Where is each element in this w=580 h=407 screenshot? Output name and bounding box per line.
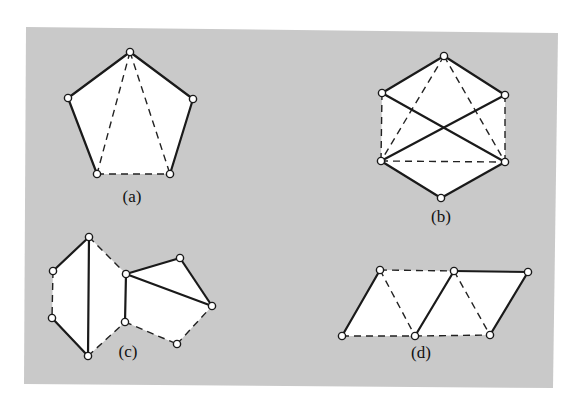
vertex-circle-icon (173, 340, 180, 347)
vertex-circle-icon (84, 352, 91, 359)
vertex-circle-icon (437, 194, 444, 201)
vertex-circle-icon (440, 52, 447, 59)
vertex-circle-icon (126, 48, 133, 55)
figure-d-label: (d) (411, 343, 431, 362)
vertex-circle-icon (189, 95, 196, 102)
vertex-circle-icon (85, 233, 92, 240)
vertex-circle-icon (176, 254, 183, 261)
vertex-circle-icon (501, 91, 508, 98)
vertex-circle-icon (501, 158, 508, 165)
solid-edge (125, 274, 126, 322)
figure-c-label: (c) (119, 342, 138, 361)
vertex-circle-icon (93, 170, 100, 177)
figure-a-label: (a) (123, 187, 142, 206)
vertex-circle-icon (48, 314, 55, 321)
vertex-circle-icon (450, 267, 457, 274)
vertex-circle-icon (49, 267, 56, 274)
figure-b-label: (b) (431, 207, 451, 226)
solid-edge (88, 237, 89, 356)
vertex-circle-icon (166, 170, 173, 177)
vertex-circle-icon (376, 266, 383, 273)
vertex-circle-icon (486, 331, 493, 338)
vertex-circle-icon (122, 270, 129, 277)
vertex-circle-icon (524, 268, 531, 275)
vertex-circle-icon (208, 302, 215, 309)
diagram-canvas: (a) (b) (c) (d) (0, 0, 580, 407)
vertex-circle-icon (64, 94, 71, 101)
vertex-circle-icon (377, 157, 384, 164)
solid-edge (454, 271, 528, 272)
vertex-circle-icon (411, 332, 418, 339)
vertex-circle-icon (121, 318, 128, 325)
vertex-circle-icon (378, 89, 385, 96)
vertex-circle-icon (338, 332, 345, 339)
